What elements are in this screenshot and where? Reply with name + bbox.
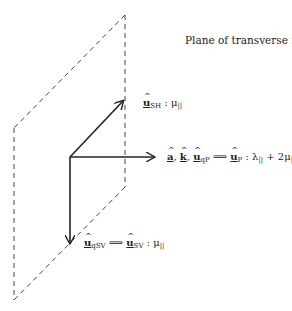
sh-label: uSH : μ|| bbox=[143, 97, 182, 112]
sv-label: uqSV ⟹ uSV : μ|| bbox=[84, 237, 164, 252]
plane-title: Plane of transverse isotropy bbox=[185, 34, 292, 46]
p-label: a, k, uqP ⟹ uP : λ|| + 2μ|| bbox=[167, 151, 292, 166]
vectors bbox=[70, 101, 154, 243]
sh-arrow bbox=[70, 101, 123, 157]
